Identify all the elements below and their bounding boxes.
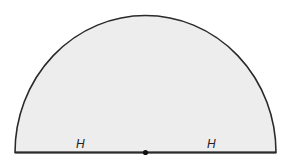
right-radius-label: H [207,137,216,151]
semicircle-region [15,15,276,152]
left-radius-label: H [76,137,85,151]
center-point [143,150,148,155]
semicircle-diagram: H H [0,0,289,163]
